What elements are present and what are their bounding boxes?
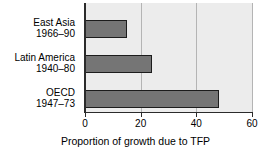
category-label-line1: Latin America [14, 52, 75, 63]
category-label-line2: 1966–90 [33, 28, 75, 39]
category-label-line2: 1947–73 [36, 98, 75, 109]
bar-east-asia[interactable] [85, 20, 127, 38]
x-tick-mark-60 [252, 113, 253, 117]
y-axis-line [84, 3, 86, 113]
category-label-line1: East Asia [33, 17, 75, 28]
category-label-latin-america: Latin America 1940–80 [14, 52, 75, 74]
x-tick-label-20: 20 [126, 118, 156, 130]
x-axis-title: Proportion of growth due to TFP [0, 135, 271, 148]
bar-oecd[interactable] [85, 90, 219, 108]
bar-latin-america[interactable] [85, 55, 152, 73]
x-tick-mark-0 [85, 113, 86, 117]
category-label-line2: 1940–80 [14, 63, 75, 74]
category-label-line1: OECD [36, 87, 75, 98]
x-tick-mark-20 [141, 113, 142, 117]
x-axis-line [84, 112, 253, 113]
bars-group [85, 3, 252, 112]
category-label-east-asia: East Asia 1966–90 [33, 17, 75, 39]
x-tick-mark-40 [196, 113, 197, 117]
bar-chart-figure: East Asia 1966–90 Latin America 1940–80 … [0, 0, 271, 156]
gridline-60 [252, 3, 253, 112]
category-labels-group: East Asia 1966–90 Latin America 1940–80 … [0, 0, 79, 113]
x-tick-label-60: 60 [237, 118, 267, 130]
x-tick-label-40: 40 [181, 118, 211, 130]
x-tick-label-0: 0 [70, 118, 100, 130]
category-label-oecd: OECD 1947–73 [36, 87, 75, 109]
